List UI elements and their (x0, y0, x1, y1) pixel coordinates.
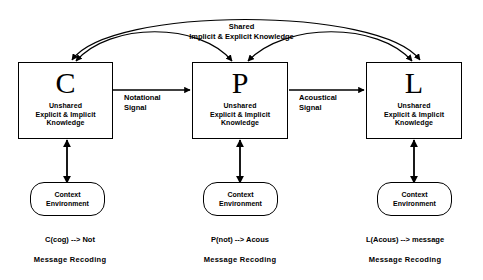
context-line2-c: Environment (46, 200, 89, 207)
caption-acoustical: L(Acous) --> message Message Recoding (330, 235, 480, 264)
node-sub-line2-l: Explicit & Implicit (384, 111, 444, 118)
context-box-cognitive[interactable]: Context Environment (30, 182, 105, 216)
context-text-notational: Context Environment (219, 190, 262, 208)
context-text-cognitive: Context Environment (46, 190, 89, 208)
edge-label-acoustical-signal: Acoustical Signal (299, 93, 337, 112)
node-subtext-notational: Unshared Explicit & Implicit Knowledge (210, 102, 270, 128)
caption-acoustical-line1: L(Acous) --> message (330, 235, 480, 244)
context-text-acoustical: Context Environment (393, 190, 436, 208)
context-line1-p: Context (227, 191, 253, 198)
context-box-notational[interactable]: Context Environment (203, 182, 278, 216)
node-subtext-acoustical: Unshared Explicit & Implicit Knowledge (384, 102, 444, 128)
node-sub-line3-c: Knowledge (46, 119, 84, 126)
shared-knowledge-label: Shared Implicit & Explicit Knowledge (0, 22, 483, 41)
edge-label-notational-line2: Signal (124, 103, 147, 112)
node-letter-c: C (55, 68, 75, 98)
edge-label-acoustical-line2: Signal (299, 103, 322, 112)
node-box-cognitive[interactable]: C Unshared Explicit & Implicit Knowledge (18, 62, 113, 139)
context-line1-l: Context (401, 191, 427, 198)
caption-notational-line2: Message Recoding (170, 255, 310, 264)
node-letter-l: L (405, 68, 423, 98)
node-sub-line1-l: Unshared (397, 102, 430, 109)
caption-acoustical-line2: Message Recoding (330, 255, 480, 264)
node-subtext-cognitive: Unshared Explicit & Implicit Knowledge (35, 102, 95, 128)
caption-notational: P(not) --> Acous Message Recoding (170, 235, 310, 264)
edge-label-acoustical-line1: Acoustical (299, 93, 337, 102)
context-line2-l: Environment (393, 200, 436, 207)
caption-cognitive-line1: C(cog) --> Not (0, 235, 140, 244)
context-box-acoustical[interactable]: Context Environment (377, 182, 452, 216)
caption-cognitive-line2: Message Recoding (0, 255, 140, 264)
node-box-notational[interactable]: P Unshared Explicit & Implicit Knowledge (192, 62, 288, 139)
edge-label-notational-signal: Notational Signal (124, 93, 161, 112)
edge-label-notational-line1: Notational (124, 93, 161, 102)
context-line2-p: Environment (219, 200, 262, 207)
node-box-acoustical[interactable]: L Unshared Explicit & Implicit Knowledge (366, 62, 462, 139)
node-sub-line3-p: Knowledge (221, 119, 259, 126)
node-sub-line3-l: Knowledge (395, 119, 433, 126)
node-letter-p: P (232, 68, 249, 98)
context-line1-c: Context (54, 191, 80, 198)
caption-notational-line1: P(not) --> Acous (170, 235, 310, 244)
shared-knowledge-line1: Shared (229, 22, 254, 31)
caption-cognitive: C(cog) --> Not Message Recoding (0, 235, 140, 264)
node-sub-line1-c: Unshared (49, 102, 82, 109)
shared-knowledge-line2: Implicit & Explicit Knowledge (189, 32, 294, 41)
diagram-canvas: Shared Implicit & Explicit Knowledge C U… (0, 0, 483, 280)
node-sub-line2-c: Explicit & Implicit (35, 111, 95, 118)
node-sub-line2-p: Explicit & Implicit (210, 111, 270, 118)
node-sub-line1-p: Unshared (223, 102, 256, 109)
